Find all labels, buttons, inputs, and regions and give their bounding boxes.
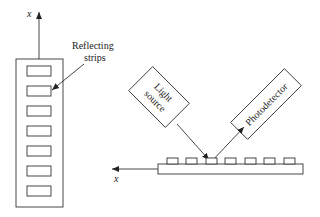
callout-label-line2: strips xyxy=(84,52,106,63)
x-axis-label-vertical: x xyxy=(26,8,32,19)
reflecting-strip-side xyxy=(206,158,217,164)
encoder-diagram: x Reflecting strips Light source Photode… xyxy=(0,0,320,217)
photodetector: Photodetector xyxy=(231,69,302,140)
reflecting-strip xyxy=(27,86,51,96)
reflecting-strip-side xyxy=(245,158,256,164)
scale-top-view: x Reflecting strips xyxy=(16,8,114,207)
reflecting-strip-side xyxy=(225,158,236,164)
scale-base xyxy=(158,164,303,174)
callout-label-line1: Reflecting xyxy=(72,40,114,51)
reflecting-strip-side xyxy=(186,158,197,164)
reflecting-strip xyxy=(27,186,51,196)
reflecting-strip xyxy=(27,126,51,136)
reflecting-strip xyxy=(27,106,51,116)
reflecting-strip-side xyxy=(264,158,275,164)
reflecting-strip xyxy=(27,146,51,156)
reflecting-strip xyxy=(27,166,51,176)
scale-side-view: Light source Photodetector x xyxy=(112,67,303,184)
reflecting-strip xyxy=(27,66,51,76)
reflecting-strip-side xyxy=(167,158,178,164)
x-axis-label-horizontal: x xyxy=(113,173,119,184)
light-source: Light source xyxy=(129,67,190,128)
incident-beam xyxy=(177,124,209,160)
reflected-beam xyxy=(212,127,244,161)
reflecting-strip-side xyxy=(284,158,295,164)
